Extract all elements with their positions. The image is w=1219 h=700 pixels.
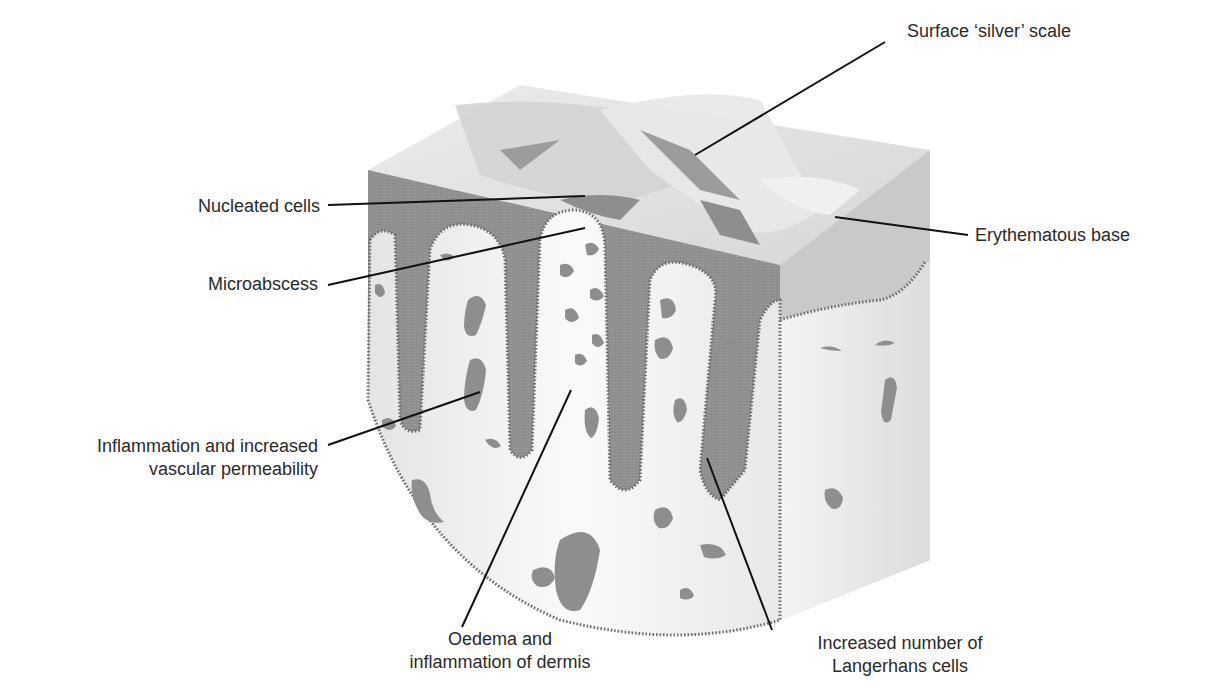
label-surface-scale: Surface ‘silver’ scale — [907, 20, 1071, 43]
label-microabscess: Microabscess — [140, 273, 318, 296]
label-oedema: Oedema and inflammation of dermis — [380, 628, 620, 674]
label-langerhans-line2: Langerhans cells — [780, 655, 1020, 678]
label-langerhans: Increased number of Langerhans cells — [780, 632, 1020, 678]
label-inflammation-line2: vascular permeability — [0, 458, 318, 481]
label-oedema-line1: Oedema and — [380, 628, 620, 651]
label-inflammation: Inflammation and increased vascular perm… — [0, 435, 318, 481]
label-langerhans-line1: Increased number of — [780, 632, 1020, 655]
label-erythematous-base: Erythematous base — [975, 224, 1130, 247]
label-nucleated-cells: Nucleated cells — [140, 195, 320, 218]
label-oedema-line2: inflammation of dermis — [380, 651, 620, 674]
label-inflammation-line1: Inflammation and increased — [0, 435, 318, 458]
psoriasis-skin-diagram — [0, 0, 1219, 700]
